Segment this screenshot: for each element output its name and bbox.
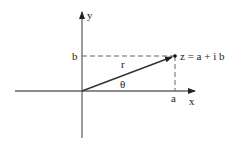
- point-label: z = a + i b: [180, 50, 225, 62]
- y-axis-label: y: [87, 9, 93, 21]
- magnitude-label: r: [121, 58, 125, 70]
- point-z: [173, 54, 177, 58]
- complex-plane-diagram: y x b a r θ z = a + i b: [0, 0, 236, 144]
- angle-label: θ: [120, 78, 125, 90]
- imag-part-label: b: [72, 50, 78, 62]
- real-part-label: a: [171, 92, 176, 104]
- x-axis-label: x: [189, 95, 195, 107]
- vector-r: [82, 57, 172, 91]
